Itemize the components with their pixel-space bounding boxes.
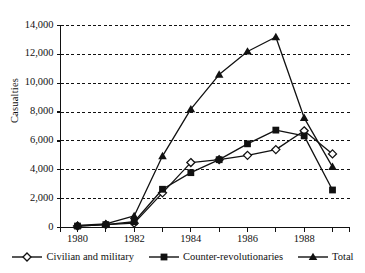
x-tick-label: 1986 <box>223 233 273 244</box>
y-tick-label: 8,000 <box>0 105 54 116</box>
filled-square-icon <box>148 251 180 263</box>
x-tick-label: 1982 <box>109 233 159 244</box>
data-series <box>73 33 337 230</box>
x-tick-label: 1984 <box>166 233 216 244</box>
y-tick-label: 10,000 <box>0 76 54 87</box>
legend-label: Total <box>332 252 353 263</box>
axis-lines <box>61 26 350 228</box>
gridlines <box>61 26 350 199</box>
legend-label: Counter-revolutionaries <box>183 252 283 263</box>
legend-label: Civilian and military <box>46 252 134 263</box>
legend-item: Counter-revolutionaries <box>148 251 283 263</box>
open-diamond-icon <box>11 251 43 263</box>
chart-legend: Civilian and militaryCounter-revolutiona… <box>0 251 365 263</box>
x-tick-label: 1988 <box>279 233 329 244</box>
y-tick-label: 2,000 <box>0 192 54 203</box>
y-tick-label: 12,000 <box>0 47 54 58</box>
y-tick-label: 0 <box>0 221 54 232</box>
casualties-line-chart: Casualties 14,00012,00010,0008,0006,0004… <box>0 0 365 273</box>
y-tick-label: 14,000 <box>0 19 54 30</box>
legend-item: Civilian and military <box>11 251 134 263</box>
filled-triangle-icon <box>297 251 329 263</box>
y-tick-label: 4,000 <box>0 163 54 174</box>
y-tick-label: 6,000 <box>0 134 54 145</box>
x-tick-label: 1980 <box>53 233 103 244</box>
legend-item: Total <box>297 251 353 263</box>
